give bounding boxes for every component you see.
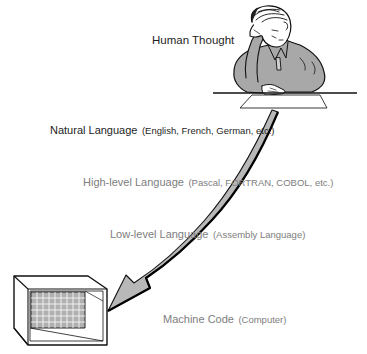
level-examples: (English, French, German, etc.)	[142, 125, 275, 136]
level-examples: (Computer)	[238, 314, 286, 325]
label-natural-language: Natural Language (English, French, Germa…	[50, 121, 274, 137]
level-title: Human Thought	[152, 34, 234, 46]
level-examples: (Assembly Language)	[213, 229, 305, 240]
label-high-level-language: High-level Language (Pascal, FORTRAN, CO…	[83, 173, 333, 189]
level-title: Low-level Language	[110, 228, 208, 240]
flow-arrow-icon	[108, 110, 278, 311]
thinking-person-icon	[234, 6, 325, 95]
computer-icon	[14, 276, 107, 345]
label-low-level-language: Low-level Language (Assembly Language)	[110, 225, 305, 241]
label-machine-code: Machine Code (Computer)	[163, 310, 286, 326]
label-human-thought: Human Thought	[152, 31, 234, 47]
level-title: High-level Language	[83, 176, 184, 188]
paper-sheet	[240, 95, 327, 108]
level-title: Natural Language	[50, 124, 137, 136]
level-examples: (Pascal, FORTRAN, COBOL, etc.)	[188, 177, 333, 188]
level-title: Machine Code	[163, 313, 234, 325]
diagram-canvas: Human Thought Natural Language (English,…	[0, 0, 367, 354]
